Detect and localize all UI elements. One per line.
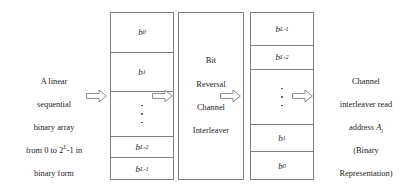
ellipsis-dot: [281, 88, 283, 90]
arrow-column-to-interleaver: [152, 89, 173, 103]
block-arrow-right-icon: [86, 89, 107, 103]
block-arrow-right-icon: [152, 89, 173, 103]
ellipsis-dot: [281, 105, 283, 107]
right-caption-line-3-pre: address: [349, 123, 376, 132]
ellipsis-dot: [141, 105, 143, 107]
left-caption-line-5: binary form: [4, 168, 104, 180]
right-caption-line-4: (Binary: [318, 145, 414, 157]
output-cell-bL-2: bL-2: [251, 46, 313, 71]
right-caption-address-sub: i: [381, 128, 383, 134]
output-cell-bL-1: bL-1: [251, 13, 313, 46]
process-label-line-4: Interleaver: [193, 125, 229, 137]
input-cell-bL-1: bL-1: [111, 158, 173, 179]
ellipsis-dot: [141, 122, 143, 124]
left-caption: A linear sequential binary array from 0 …: [4, 64, 104, 192]
right-caption-line-2: interleaver read: [318, 99, 414, 111]
left-caption-line-4-pre: from 0 to 2: [26, 146, 63, 155]
output-cell-b1: b1: [251, 125, 313, 153]
arrow-column-to-output: [292, 89, 313, 103]
left-caption-line-3: binary array: [4, 122, 104, 134]
input-cell-b0: b0: [111, 13, 173, 53]
process-label-line-1: Bit: [193, 55, 229, 67]
input-cell-b1: b1: [111, 53, 173, 93]
arrow-interleaver-to-column: [220, 89, 241, 103]
output-cell-b0: b0: [251, 152, 313, 179]
ellipsis-dot: [141, 113, 143, 115]
process-label-line-3: Channel: [193, 102, 229, 114]
right-caption-line-3: address Ai: [318, 122, 414, 134]
left-caption-line-1: A linear: [4, 76, 104, 88]
right-caption-line-1: Channel: [318, 76, 414, 88]
block-arrow-right-icon: [220, 89, 241, 103]
left-caption-line-4-post: -1 in: [67, 146, 83, 155]
left-caption-line-4: from 0 to 2L-1 in: [4, 145, 104, 157]
input-cell-bL-2: bL-2: [111, 137, 173, 159]
arrow-input-to-column: [86, 89, 107, 103]
ellipsis-dot: [281, 96, 283, 98]
right-caption-line-5: Representation): [318, 168, 414, 180]
block-arrow-right-icon: [292, 89, 313, 103]
diagram-canvas: A linear sequential binary array from 0 …: [0, 0, 414, 192]
right-caption: Channel interleaver read address Ai (Bin…: [318, 64, 414, 192]
